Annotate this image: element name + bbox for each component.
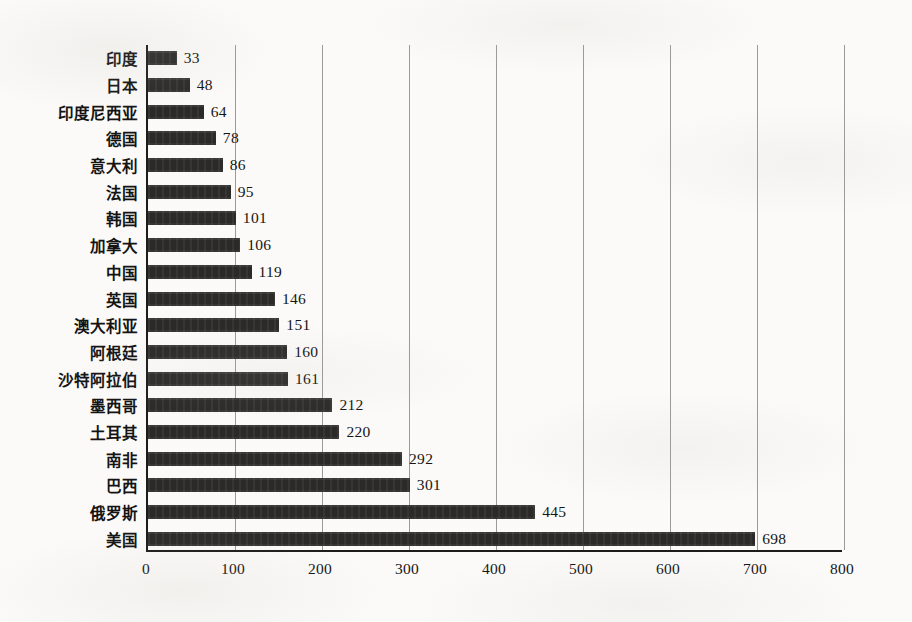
bar: [148, 292, 275, 306]
bar-value-label: 33: [184, 49, 200, 67]
category-label-text: 意大利: [90, 154, 138, 176]
bar: [148, 78, 190, 92]
category-label: 英国: [0, 285, 138, 312]
category-label-text: 中国: [106, 261, 138, 283]
category-label-text: 沙特阿拉伯: [58, 368, 138, 390]
category-label-text: 日本: [106, 74, 138, 96]
bar-value-label: 160: [294, 343, 318, 361]
bar: [148, 345, 287, 359]
category-label-text: 韩国: [106, 207, 138, 229]
x-tick-200: 200: [308, 560, 332, 578]
bar: [148, 158, 223, 172]
category-label: 德国: [0, 125, 138, 152]
bar: [148, 51, 177, 65]
category-label-text: 英国: [106, 288, 138, 310]
bar-value-label: 292: [409, 450, 433, 468]
category-label-text: 墨西哥: [90, 394, 138, 416]
bar: [148, 185, 231, 199]
bar: [148, 211, 236, 225]
bar-chart: 3348647886951011061191461511601612122202…: [0, 0, 912, 622]
bar-value-label: 106: [247, 236, 271, 254]
bar-row: 95: [148, 178, 842, 205]
bar-value-label: 64: [211, 103, 227, 121]
bar-row: 119: [148, 258, 842, 285]
category-label-text: 土耳其: [90, 421, 138, 443]
bar: [148, 532, 755, 546]
bar: [148, 398, 332, 412]
bar-value-label: 95: [238, 183, 254, 201]
bar-value-label: 101: [243, 209, 267, 227]
category-label: 美国: [0, 525, 138, 552]
category-label: 墨西哥: [0, 392, 138, 419]
bar-value-label: 698: [762, 530, 786, 548]
bar-value-label: 220: [346, 423, 370, 441]
bar-row: 301: [148, 472, 842, 499]
category-label-text: 巴西: [106, 474, 138, 496]
bar-row: 212: [148, 392, 842, 419]
bar: [148, 131, 216, 145]
gridline-800: [844, 45, 845, 550]
bar-row: 160: [148, 339, 842, 366]
bar: [148, 238, 240, 252]
bar: [148, 505, 535, 519]
category-label-text: 南非: [106, 448, 138, 470]
category-label: 阿根廷: [0, 339, 138, 366]
x-tick-100: 100: [221, 560, 245, 578]
category-label: 中国: [0, 258, 138, 285]
category-label: 澳大利亚: [0, 312, 138, 339]
category-label: 韩国: [0, 205, 138, 232]
category-label-text: 加拿大: [90, 234, 138, 256]
bar-value-label: 212: [339, 396, 363, 414]
bar-value-label: 78: [223, 129, 239, 147]
x-tick-800: 800: [830, 560, 854, 578]
plot-area: 3348647886951011061191461511601612122202…: [146, 45, 842, 552]
x-tick-400: 400: [482, 560, 506, 578]
bar-row: 78: [148, 125, 842, 152]
category-label: 印度: [0, 45, 138, 72]
bar-value-label: 48: [197, 76, 213, 94]
bar-row: 33: [148, 45, 842, 72]
bar-value-label: 146: [282, 290, 306, 308]
bar-value-label: 151: [286, 316, 310, 334]
category-label-text: 俄罗斯: [90, 501, 138, 523]
bar-value-label: 445: [542, 503, 566, 521]
x-tick-0: 0: [142, 560, 150, 578]
bar: [148, 318, 279, 332]
bar-row: 101: [148, 205, 842, 232]
x-tick-600: 600: [656, 560, 680, 578]
category-label: 法国: [0, 178, 138, 205]
category-label: 南非: [0, 445, 138, 472]
category-label-text: 法国: [106, 181, 138, 203]
category-label: 巴西: [0, 472, 138, 499]
x-tick-700: 700: [743, 560, 767, 578]
category-label-text: 澳大利亚: [74, 314, 138, 336]
bar-row: 86: [148, 152, 842, 179]
bar-row: 48: [148, 72, 842, 99]
bar-value-label: 86: [230, 156, 246, 174]
bar: [148, 105, 204, 119]
bar: [148, 452, 402, 466]
category-label-text: 美国: [106, 528, 138, 550]
bar: [148, 372, 288, 386]
category-label: 沙特阿拉伯: [0, 365, 138, 392]
bar: [148, 265, 252, 279]
category-label: 日本: [0, 72, 138, 99]
bar-value-label: 119: [259, 263, 283, 281]
bar-row: 220: [148, 419, 842, 446]
category-label: 俄罗斯: [0, 499, 138, 526]
category-label-text: 印度尼西亚: [58, 101, 138, 123]
bar-value-label: 301: [417, 476, 441, 494]
category-label-text: 印度: [106, 47, 138, 69]
x-tick-500: 500: [569, 560, 593, 578]
bar-row: 292: [148, 445, 842, 472]
bar-row: 106: [148, 232, 842, 259]
bar-row: 698: [148, 525, 842, 552]
bar: [148, 425, 339, 439]
bar-row: 151: [148, 312, 842, 339]
category-label: 印度尼西亚: [0, 98, 138, 125]
category-label-text: 德国: [106, 127, 138, 149]
bar-row: 161: [148, 365, 842, 392]
category-label: 土耳其: [0, 419, 138, 446]
category-label: 意大利: [0, 152, 138, 179]
bar-row: 146: [148, 285, 842, 312]
